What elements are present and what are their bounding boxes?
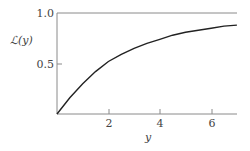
chart: 1.0 0.5 2 4 6 ℒ(y) y [0, 0, 250, 151]
x-axis-label: y [144, 131, 152, 144]
y-tick-label: 1.0 [37, 7, 55, 20]
data-curve [57, 25, 237, 114]
x-tick-label: 4 [157, 117, 164, 130]
y-axis-label: ℒ(y) [10, 34, 33, 47]
y-tick-label: 0.5 [37, 58, 55, 71]
x-tick-label: 6 [209, 117, 216, 130]
x-tick-label: 2 [106, 117, 113, 130]
